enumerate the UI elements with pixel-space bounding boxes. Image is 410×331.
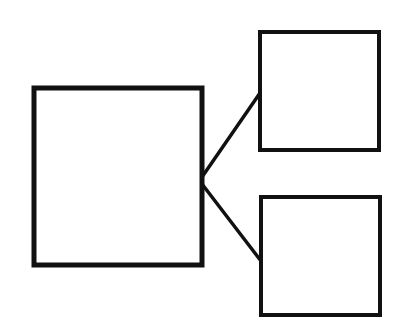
connector-root-to-child-top: [202, 93, 260, 177]
diagram-canvas: [0, 0, 410, 331]
node-box-child-bottom: [261, 197, 380, 315]
nodes-group: [34, 32, 380, 315]
node-box-root: [34, 88, 202, 265]
diagram-svg: [0, 0, 410, 331]
connector-root-to-child-bottom: [202, 184, 261, 261]
edges-group: [202, 93, 261, 261]
node-box-child-top: [260, 32, 379, 150]
